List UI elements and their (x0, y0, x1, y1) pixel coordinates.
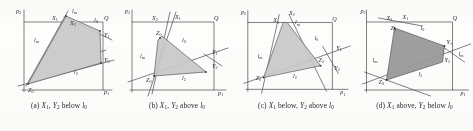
panel-b: p2 p1 X2 X1 Z0 Q l0 Y1 Y2 lm l2 Z0 (b)X1… (118, 0, 236, 131)
label-Z0: Z0 (156, 29, 162, 37)
panel-a-diagram: p2 p1 X1 X2 lm l0 Q Y1 Y2 lm l2 Z0 (0, 0, 118, 102)
label-X1: X1 (51, 14, 58, 22)
label-lm-left: lm (34, 36, 40, 44)
shaded-region (154, 36, 206, 76)
label-l0: l0 (94, 16, 98, 24)
figure-four-panel-diagram: p2 p1 X1 X2 lm l0 Q Y1 Y2 lm l2 Z0 (a)X1… (0, 0, 473, 131)
caption-tag: (d) (376, 101, 385, 110)
caption-verb2: below (427, 101, 446, 110)
label-Y2: Y2 (212, 62, 218, 70)
label-Y1: Y1 (447, 38, 453, 46)
panel-b-caption: (b)X1, Y2 above l0 (118, 100, 236, 113)
label-axis-p2: p2 (15, 8, 21, 15)
caption-verb1: above, (396, 101, 416, 110)
panel-d-caption: (d)X1 above, Y2 below l0 (356, 100, 473, 113)
label-Q: Q (214, 14, 219, 21)
label-X2: X2 (288, 10, 295, 17)
caption-verb2: above (309, 101, 327, 110)
label-l2: l2 (182, 74, 186, 82)
shaded-region (387, 28, 445, 80)
label-lm: lm (140, 52, 146, 60)
label-X2: X2 (151, 14, 158, 22)
label-Y2: Y2 (445, 56, 451, 64)
label-l2: l2 (419, 70, 423, 78)
label-axis-p2: p2 (240, 9, 246, 16)
label-Z0: Z0 (256, 75, 261, 82)
label-l0: l0 (315, 35, 319, 42)
panel-d: p2 p1 X2 X1 Q Z0 l0 Y1 Y2 lm lm l2 Z0 (d… (356, 0, 473, 131)
panel-a: p2 p1 X1 X2 lm l0 Q Y1 Y2 lm l2 Z0 (a)X1… (0, 0, 118, 131)
label-l0: l0 (421, 24, 425, 32)
label-Z2: Z2 (319, 57, 324, 64)
shaded-region (28, 16, 101, 84)
label-X1: X1 (402, 13, 409, 21)
caption-tag: (b) (149, 101, 158, 110)
panel-b-diagram: p2 p1 X2 X1 Z0 Q l0 Y1 Y2 lm l2 Z0 (118, 0, 236, 102)
label-lm-right: lm (459, 50, 465, 58)
label-lm: lm (373, 56, 379, 64)
caption-verb: above (180, 101, 198, 110)
label-l2: l2 (293, 73, 297, 80)
panel-d-diagram: p2 p1 X2 X1 Q Z0 l0 Y1 Y2 lm lm l2 Z0 (356, 0, 473, 102)
label-X1: X1 (174, 13, 181, 21)
label-Y1: Y1 (336, 45, 341, 52)
label-Z0: Z0 (391, 24, 397, 32)
label-Y1: Y1 (104, 31, 110, 39)
label-Q: Q (332, 16, 337, 22)
label-axis-p1: p1 (217, 90, 223, 97)
label-Z0: Z0 (28, 86, 34, 94)
label-Z0b: Z0 (379, 78, 385, 86)
label-axis-p2: p2 (124, 8, 130, 15)
label-lm: lm (295, 19, 301, 26)
panel-c-caption: (c)X1 below, Y2 above l0 (236, 100, 356, 113)
panel-c: p2 p1 X1 X2 lm Q l0 Y1 Y2 Z2 lm l2 Z0 (c… (236, 0, 356, 131)
label-lm: lm (72, 7, 78, 15)
caption-tag: (c) (258, 101, 267, 110)
shaded-region (264, 22, 321, 77)
label-axis-p2: p2 (360, 8, 366, 15)
label-l0: l0 (182, 36, 186, 44)
label-Y2: Y2 (334, 65, 339, 72)
label-Q: Q (453, 14, 458, 21)
panel-c-diagram: p2 p1 X1 X2 lm Q l0 Y1 Y2 Z2 lm l2 Z0 (236, 0, 356, 102)
label-Y1: Y1 (212, 48, 218, 56)
label-X2: X2 (386, 14, 393, 22)
label-lm-left: lm (258, 53, 264, 60)
label-Q: Q (104, 14, 109, 21)
caption-tag: (a) (31, 101, 40, 110)
label-axis-p1: p1 (460, 90, 466, 97)
panel-a-caption: (a)X1, Y2 below l0 (0, 100, 118, 113)
label-axis-p1: p1 (339, 89, 345, 96)
caption-verb: below (62, 101, 81, 110)
label-Z0b: Z0 (146, 76, 152, 84)
caption-verb1: below, (278, 101, 298, 110)
label-Y2: Y2 (104, 56, 110, 64)
